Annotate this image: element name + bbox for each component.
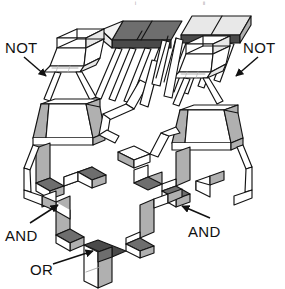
arrow-and-right	[182, 206, 210, 218]
label-or: OR	[30, 262, 53, 277]
label-not-right: NOT	[243, 40, 276, 55]
cage-right	[172, 105, 243, 150]
arrow-and-left	[30, 205, 58, 223]
not-gate-left	[44, 29, 104, 101]
input-block-left	[101, 21, 182, 50]
structure-group	[24, 16, 252, 288]
or-gate	[84, 240, 126, 288]
label-input-i: i	[135, 1, 136, 6]
and-gate-left	[36, 143, 106, 251]
label-not-left: NOT	[5, 40, 38, 55]
arrow-not-left	[24, 57, 46, 76]
arrow-not-right	[236, 57, 258, 76]
label-and-right: AND	[188, 224, 221, 239]
label-input-ii: ii	[203, 1, 205, 6]
label-and-left: AND	[5, 228, 38, 243]
diagram-canvas: NOT NOT AND AND OR i ii	[0, 0, 285, 289]
cage-left	[33, 99, 105, 145]
